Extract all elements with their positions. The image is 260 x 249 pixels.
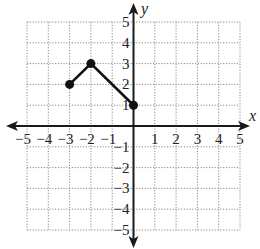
y-tick-label: 5: [122, 14, 130, 30]
y-tick-label: −2: [114, 160, 130, 176]
y-axis-label: y: [139, 0, 149, 18]
x-tick-label: 4: [215, 131, 223, 147]
y-tick-label: 2: [122, 76, 130, 92]
closed-endpoint-dot: [129, 101, 138, 110]
x-tick-label: 1: [151, 131, 159, 147]
y-tick-label: −1: [114, 139, 130, 155]
x-tick-label: 2: [172, 131, 180, 147]
x-tick-label: −2: [79, 131, 95, 147]
closed-endpoint-dot: [86, 59, 95, 68]
y-tick-label: −4: [114, 201, 130, 217]
x-axis-label: x: [248, 107, 256, 124]
graph-svg: −5−4−3−2−112345 54321−1−2−3−4−5 x y: [0, 0, 260, 249]
y-tick-label: 3: [122, 56, 130, 72]
y-tick-label: 4: [122, 35, 130, 51]
x-tick-label: −5: [15, 131, 31, 147]
x-tick-label: −4: [36, 131, 52, 147]
y-tick-label: −5: [114, 222, 130, 238]
x-tick-label: 3: [194, 131, 202, 147]
x-tick-label: 5: [236, 131, 244, 147]
closed-endpoint-dot: [65, 80, 74, 89]
x-tick-label: −3: [58, 131, 74, 147]
coordinate-plane: −5−4−3−2−112345 54321−1−2−3−4−5 x y: [0, 0, 260, 249]
y-tick-label: −3: [114, 180, 130, 196]
